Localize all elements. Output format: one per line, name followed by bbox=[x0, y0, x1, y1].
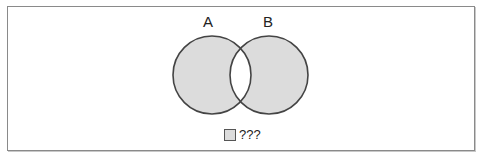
legend-swatch bbox=[224, 129, 236, 141]
set-a-label: A bbox=[203, 13, 213, 30]
set-b-label: B bbox=[263, 13, 273, 30]
legend: ??? bbox=[224, 127, 261, 142]
legend-label: ??? bbox=[239, 127, 261, 142]
